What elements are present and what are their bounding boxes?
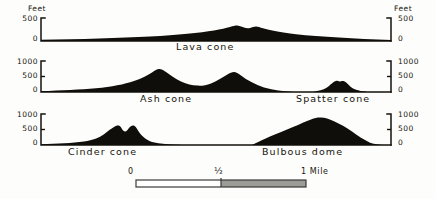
terrain-cinder-cone <box>41 125 180 145</box>
label-lava-cone: Lava cone <box>176 41 234 52</box>
terrain-bulbous-dome <box>252 118 383 145</box>
label-bulbous-dome: Bulbous dome <box>262 146 343 157</box>
terrain-spatter-cone <box>313 81 366 92</box>
label-cinder-cone: Cinder cone <box>68 146 137 157</box>
volcano-profiles-figure: Feet Feet 500 0 500 0 Lava cone 1000 500… <box>0 0 436 199</box>
scale-bar-plot <box>0 167 436 189</box>
scale-bar-half-left <box>136 180 221 187</box>
label-spatter-cone: Spatter cone <box>296 93 370 104</box>
scale-bar-half-right <box>221 180 306 187</box>
label-ash-cone: Ash cone <box>140 93 192 104</box>
panel-ash-spatter-plot <box>0 53 436 109</box>
terrain-ash-cone <box>41 69 292 92</box>
terrain-lava-cone <box>41 26 391 41</box>
panel-cinder-bulbous-plot <box>0 106 436 162</box>
